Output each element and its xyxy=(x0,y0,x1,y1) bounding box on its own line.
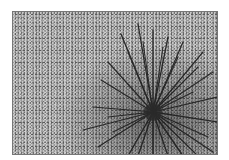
urchin-photo xyxy=(12,11,218,155)
urchin-spines xyxy=(13,12,218,155)
